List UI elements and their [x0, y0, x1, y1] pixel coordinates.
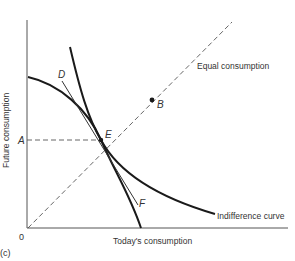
- consumption-diagram: D E F B A 0 Equal consumption Indifferen…: [0, 0, 295, 261]
- equal-consumption-label: Equal consumption: [197, 61, 270, 71]
- point-b-label: B: [157, 99, 164, 110]
- panel-label: (c): [0, 248, 11, 258]
- y-axis-label: Future consumption: [1, 93, 11, 168]
- point-b: [150, 98, 155, 103]
- origin-label: 0: [19, 232, 24, 242]
- indifference-curve-label: Indifference curve: [217, 211, 285, 221]
- equal-consumption-line: [28, 22, 232, 228]
- point-e-label: E: [105, 129, 112, 140]
- point-e: [99, 138, 103, 142]
- indifference-curve: [70, 47, 215, 214]
- x-axis-label: Today's consumption: [113, 236, 192, 246]
- a-label: A: [17, 135, 25, 146]
- point-f-label: F: [139, 198, 146, 209]
- point-d-label: D: [58, 69, 65, 80]
- tangent-line-df: [62, 81, 138, 205]
